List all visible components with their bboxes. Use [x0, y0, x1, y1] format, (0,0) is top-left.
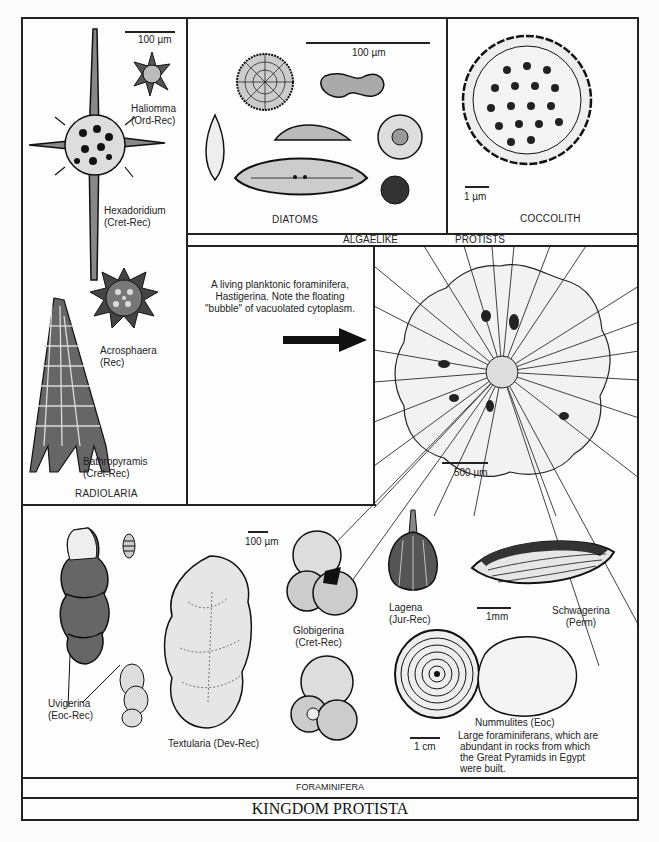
band-foraminifera-top	[21, 777, 639, 779]
bathropyramis-illustration	[28, 296, 123, 476]
scale-bar-coccolith	[465, 186, 489, 188]
label-lagena: Lagena (Jur-Rec)	[389, 602, 431, 626]
scale-label-coccolith: 1 µm	[464, 191, 486, 203]
label-bathropyramis: Bathropyramis (Cret-Rec)	[83, 456, 147, 480]
lagena-illustration	[385, 508, 441, 600]
divider-diatoms-coccolith	[446, 17, 448, 234]
band-label-protists: PROTISTS	[455, 234, 505, 245]
globigerina-illustration	[287, 527, 359, 625]
scale-label-nummulites: 1 cm	[414, 741, 436, 753]
haliomma-illustration	[132, 50, 172, 100]
schwagerina-illustration	[468, 530, 618, 600]
globigerina-bottom-illustration	[289, 652, 361, 744]
label-haliomma: Haliomma (Ord-Rec)	[131, 103, 176, 127]
scale-bar-foraminifera	[248, 531, 268, 533]
divider-upper-lower	[21, 504, 376, 506]
nummulites-illustration	[393, 628, 583, 720]
scale-label-foraminifera: 100 µm	[245, 536, 279, 548]
figure-title: KINGDOM PROTISTA	[21, 797, 639, 821]
label-textularia: Textularia (Dev-Rec)	[168, 738, 259, 750]
label-nummulites: Nummulites (Eoc)	[475, 717, 554, 729]
scale-bar-nummulites	[410, 737, 440, 739]
textularia-illustration	[162, 552, 254, 730]
band-algaelike-top	[186, 233, 639, 235]
label-globigerina: Globigerina (Cret-Rec)	[293, 625, 344, 649]
hastigerina-caption: A living planktonic foraminifera, Hastig…	[187, 279, 373, 315]
band-label-algaelike: ALGAELIKE	[343, 234, 398, 245]
uvigerina-small-illustration	[121, 532, 137, 560]
section-label-radiolaria: RADIOLARIA	[75, 488, 138, 499]
band-label-foraminifera: FORAMINIFERA	[21, 782, 639, 792]
scale-label-hastigerina: 500 µm	[454, 467, 488, 479]
coccolith-illustration	[455, 30, 605, 170]
section-label-coccolith: COCCOLITH	[520, 213, 581, 224]
label-schwagerina: Schwagerina (Perm)	[552, 605, 610, 629]
scale-bar-schwagerina	[477, 607, 511, 609]
label-hexadoridium: Hexadoridium (Cret-Rec)	[104, 205, 166, 229]
divider-radiolaria-right	[186, 17, 188, 505]
arrow-icon	[283, 328, 367, 352]
nummulites-note: Large foraminiferans, which are abundant…	[458, 730, 598, 774]
section-label-diatoms: DIATOMS	[272, 214, 318, 225]
diatoms-illustration	[195, 40, 445, 210]
scale-bar-hastigerina	[442, 462, 488, 464]
label-uvigerina: Uvigerina (Eoc-Rec)	[48, 698, 93, 722]
scale-label-schwagerina: 1mm	[486, 611, 508, 623]
